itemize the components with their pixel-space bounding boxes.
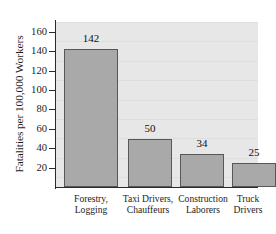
y-tick-label-40: 40 bbox=[3, 143, 47, 153]
y-tick-100 bbox=[49, 90, 56, 91]
y-tick-label-80: 80 bbox=[3, 104, 47, 114]
bar-value-label-construction-laborers: 34 bbox=[180, 138, 224, 149]
bar-value-label-forestry-logging: 142 bbox=[64, 33, 118, 44]
bar-value-label-taxi-drivers-chauffeurs: 50 bbox=[128, 123, 172, 134]
y-axis-line bbox=[55, 20, 56, 189]
bar-value-label-truck-drivers: 25 bbox=[232, 147, 276, 158]
x-category-label-truck-drivers: Truck Drivers bbox=[222, 193, 274, 216]
y-tick-label-160: 160 bbox=[3, 27, 47, 37]
y-tick-80 bbox=[49, 109, 56, 110]
y-tick-160 bbox=[49, 32, 56, 33]
bar-chart: Fatalities per 100,000 Workers 160 140 1… bbox=[0, 0, 276, 234]
y-tick-40 bbox=[49, 148, 56, 149]
y-tick-label-100: 100 bbox=[3, 85, 47, 95]
bar-forestry-logging bbox=[64, 49, 118, 187]
y-tick-20 bbox=[49, 168, 56, 169]
x-axis-line bbox=[55, 187, 258, 188]
bar-truck-drivers bbox=[232, 163, 276, 187]
bar-taxi-drivers-chauffeurs bbox=[128, 139, 172, 188]
x-category-label-line2: Drivers bbox=[222, 204, 274, 215]
y-tick-120 bbox=[49, 71, 56, 72]
y-tick-label-20: 20 bbox=[3, 163, 47, 173]
plot-area bbox=[56, 22, 258, 187]
y-tick-140 bbox=[49, 51, 56, 52]
y-tick-label-60: 60 bbox=[3, 124, 47, 134]
y-tick-60 bbox=[49, 129, 56, 130]
bar-construction-laborers bbox=[180, 154, 224, 187]
gridline bbox=[56, 22, 258, 23]
x-category-label-line1: Truck bbox=[222, 193, 274, 204]
y-tick-label-140: 140 bbox=[3, 46, 47, 56]
y-tick-label-120: 120 bbox=[3, 66, 47, 76]
